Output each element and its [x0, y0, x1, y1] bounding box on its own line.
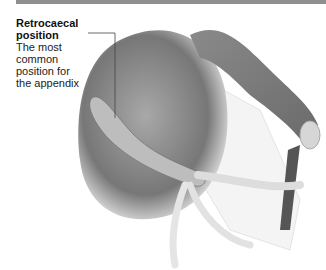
anatomy-illustration: [0, 0, 326, 270]
